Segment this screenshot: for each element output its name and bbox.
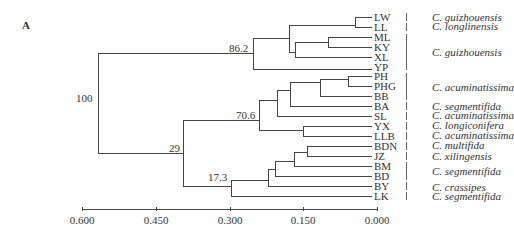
clade-70-6	[259, 100, 303, 130]
species-label: C. multifida	[432, 140, 485, 150]
species-label: C. xilingensis	[432, 151, 492, 161]
node-support-label: 29	[169, 143, 180, 154]
node-support-label: 86.2	[229, 43, 248, 54]
clade-86-2	[253, 38, 372, 69]
x-axis-tick-label: 0.000	[357, 214, 397, 226]
x-axis-tick-label: 0.300	[210, 214, 250, 226]
x-axis-line	[82, 207, 377, 211]
x-axis-tick-label: 0.600	[62, 214, 102, 226]
species-label: C. acuminatissima	[432, 82, 514, 92]
leaf-label: LK	[374, 191, 389, 201]
x-axis-tick-label: 0.150	[283, 214, 323, 226]
x-axis-tick-label: 0.450	[136, 214, 176, 226]
node-support-label: 70.6	[236, 110, 255, 121]
species-label: C. segmentifida	[432, 191, 501, 201]
clade-17-3	[231, 180, 372, 196]
root-branch	[98, 53, 253, 153]
node-support-label: 17.3	[208, 172, 227, 183]
species-label: C. longlinensis	[432, 21, 498, 31]
node-support-label: 100	[76, 93, 93, 104]
species-label: C. segmentifida	[432, 166, 501, 176]
species-label: C. guizhouensis	[432, 47, 502, 57]
